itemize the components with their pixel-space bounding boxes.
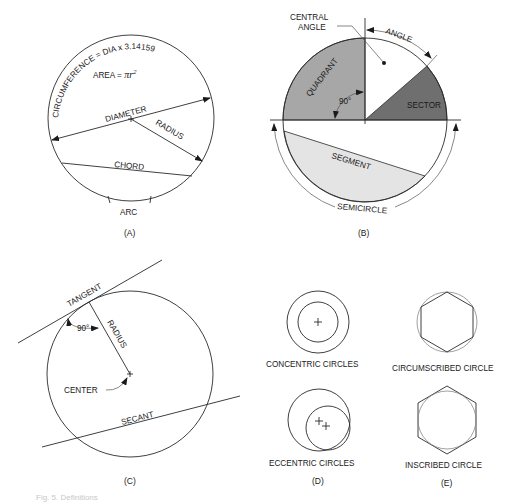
panel-c-label: (C): [124, 476, 136, 486]
diameter-label: DIAMETER: [104, 104, 147, 124]
sector-label: SECTOR: [407, 101, 441, 110]
chord-label: CHORD: [114, 160, 145, 172]
radius-label-c: RADIUS: [105, 319, 129, 351]
concentric-label: CONCENTRIC CIRCLES: [266, 360, 359, 369]
eccentric-inner-circle: [306, 406, 350, 450]
panel-a-label: (A): [124, 228, 136, 238]
central-angle-label-line1: CENTRAL: [290, 13, 329, 22]
central-angle-label-line2: ANGLE: [298, 23, 326, 32]
eccentric-label: ECCENTRIC CIRCLES: [269, 459, 355, 468]
inscribed-circle: [418, 391, 476, 449]
inscribed-label: INSCRIBED CIRCLE: [405, 461, 482, 470]
ninety-label-b: 90°: [339, 97, 351, 106]
semicircle-label: SEMICIRCLE: [337, 202, 388, 215]
panel-c: TANGENT RADIUS 90° CENTER SECANT (C) Fig…: [18, 260, 240, 502]
sector-region: [365, 66, 447, 120]
ninety-label-c: 90°: [77, 324, 89, 333]
center-mark-c: [127, 371, 133, 377]
panel-b-label: (B): [358, 228, 370, 238]
area-label: AREA = πr2: [93, 68, 137, 80]
panel-e: CIRCUMSCRIBED CIRCLE INSCRIBED CIRCLE (E…: [392, 292, 494, 488]
panel-d: CONCENTRIC CIRCLES ECCENTRIC CIRCLES (D): [266, 291, 359, 486]
panel-d-label: (D): [312, 476, 324, 486]
concentric-center-mark: [314, 318, 322, 326]
circumscribed-label: CIRCUMSCRIBED CIRCLE: [392, 364, 494, 373]
circumscribed-circle: [417, 292, 477, 352]
inscribed-hexagon: [418, 386, 476, 454]
central-angle-dot: [382, 61, 386, 65]
sector-extension: [427, 55, 437, 66]
radius-label-a: RADIUS: [154, 118, 186, 142]
arc-label: ARC: [120, 208, 137, 217]
tangent-line: [18, 260, 162, 343]
panel-a: CIRCUMFERENCE = DIA x 3.14159 AREA = πr2…: [48, 35, 214, 238]
panel-b: ANGLE CENTRAL ANGLE QUADRANT 90° SECTOR …: [270, 13, 461, 238]
eccentric-center-mark-1: [315, 417, 323, 425]
center-label: CENTER: [64, 386, 98, 395]
semicircle-arc-right: [395, 124, 456, 207]
eccentric-center-mark-2: [322, 422, 330, 430]
center-leader: [106, 378, 127, 390]
secant-label: SECANT: [120, 410, 154, 427]
panel-e-label: (E): [441, 478, 453, 488]
figure-caption-partial: Fig. 5. Definitions: [36, 493, 98, 502]
circumscribed-hexagon: [421, 292, 473, 352]
circle-definitions-figure: CIRCUMFERENCE = DIA x 3.14159 AREA = πr2…: [0, 0, 522, 504]
